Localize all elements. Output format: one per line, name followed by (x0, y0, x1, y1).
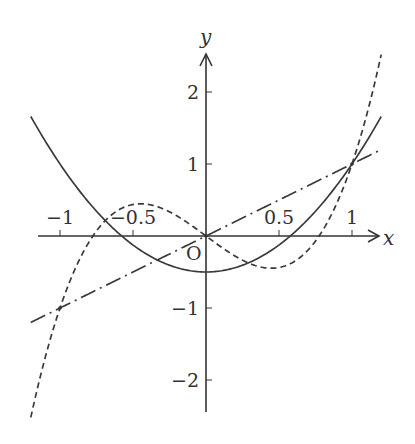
x-tick-label: 0.5 (264, 206, 294, 228)
x-axis-label: x (383, 226, 394, 250)
x-tick-label: −1 (46, 206, 74, 228)
legendre-polynomial-plot: x y O −1−0.50.51 21−1−2 (0, 0, 415, 444)
y-tick-label: −1 (171, 297, 199, 319)
intersection-point (204, 234, 208, 238)
y-tick-label: −2 (171, 369, 199, 391)
intersection-point (350, 162, 354, 166)
x-tick-label: −0.5 (110, 206, 156, 228)
x-ticks: −1−0.50.51 (46, 206, 358, 236)
y-axis-label: y (199, 25, 212, 49)
x-tick-label: 1 (346, 206, 358, 228)
y-tick-label: 1 (187, 153, 199, 175)
intersection-point (58, 306, 62, 310)
y-tick-label: 2 (187, 81, 199, 103)
axes: x y O −1−0.50.51 21−1−2 (38, 25, 394, 412)
